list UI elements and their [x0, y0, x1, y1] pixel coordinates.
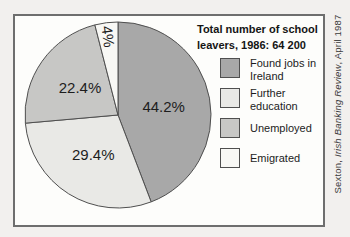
legend-swatch-found-jobs — [220, 58, 240, 78]
chart-frame: 44.2%29.4%22.4%4% Total number of school… — [13, 14, 325, 227]
legend-label-further-education-line1: Further — [250, 87, 298, 100]
legend-swatch-unemployed — [220, 118, 240, 138]
legend-label-unemployed-line1: Unemployed — [250, 122, 312, 135]
pie-slice-label-found-jobs-in-ireland: 44.2% — [142, 98, 185, 115]
source-citation-date: , April 1987 — [332, 14, 343, 64]
legend-label-further-education: Further education — [250, 87, 298, 113]
legend-item-found-jobs: Found jobs in Ireland — [220, 58, 316, 83]
chart-title-line2: leavers, 1986: 64 200 — [197, 37, 325, 53]
legend-item-emigrated: Emigrated — [220, 148, 300, 168]
legend-label-found-jobs-line1: Found jobs in — [250, 57, 316, 70]
pie-chart: 44.2%29.4%22.4%4% — [23, 20, 213, 210]
scanned-page: 44.2%29.4%22.4%4% Total number of school… — [0, 0, 350, 237]
legend-label-emigrated: Emigrated — [250, 152, 300, 165]
chart-title-line1: Total number of school — [197, 21, 325, 37]
pie-slice-label-emigrated: 4% — [99, 25, 119, 49]
pie-slice-label-unemployed: 22.4% — [59, 79, 102, 96]
legend-swatch-emigrated — [220, 148, 240, 168]
legend-label-further-education-line2: education — [250, 100, 298, 113]
legend-label-found-jobs-line2: Ireland — [250, 70, 316, 83]
legend-swatch-further-education — [220, 88, 240, 108]
chart-title: Total number of school leavers, 1986: 64… — [197, 21, 325, 53]
source-citation-author: Sexton, — [332, 157, 343, 193]
legend-label-emigrated-line1: Emigrated — [250, 152, 300, 165]
source-citation: Sexton, Irish Banking Review, April 1987 — [332, 14, 343, 193]
legend-label-unemployed: Unemployed — [250, 122, 312, 135]
legend-item-further-education: Further education — [220, 88, 298, 113]
pie-slice-label-further-education: 29.4% — [72, 146, 115, 163]
source-citation-journal: Irish Banking Review — [332, 64, 343, 157]
legend-item-unemployed: Unemployed — [220, 118, 312, 138]
legend-label-found-jobs: Found jobs in Ireland — [250, 57, 316, 83]
